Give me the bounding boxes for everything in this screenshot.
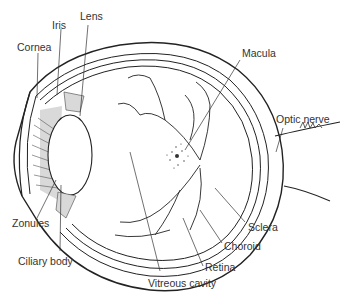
label-cornea: Cornea xyxy=(17,41,51,53)
label-zonules: Zonules xyxy=(12,217,49,229)
label-lens: Lens xyxy=(80,10,103,22)
label-sclera: Sclera xyxy=(248,221,278,233)
macula-spot xyxy=(166,143,188,168)
label-macula: Macula xyxy=(242,47,276,59)
label-iris: Iris xyxy=(52,19,66,31)
label-vitreous-cavity: Vitreous cavity xyxy=(148,277,216,289)
label-ciliary-body: Ciliary body xyxy=(18,255,73,267)
label-retina: Retina xyxy=(205,261,235,273)
label-optic-nerve: Optic nerve xyxy=(276,113,330,125)
label-choroid: Choroid xyxy=(224,240,261,252)
retinal-vessels xyxy=(115,75,210,237)
